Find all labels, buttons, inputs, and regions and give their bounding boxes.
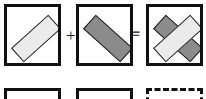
panel-light-bar-content — [7, 7, 58, 63]
panel-light-bar — [4, 4, 61, 66]
panel-row2-second-content — [79, 91, 130, 99]
equals-operator: = — [130, 26, 141, 42]
panel-dark-bar — [76, 4, 133, 66]
plus-operator: + — [66, 27, 76, 44]
panel-row2-second — [76, 88, 133, 99]
panel-row2-first — [4, 88, 61, 99]
panel-overlap-result — [146, 4, 203, 66]
panel-row2-third-dashed — [146, 88, 203, 99]
light-rectangle — [11, 14, 58, 62]
panel-row2-first-content — [7, 91, 58, 99]
dark-rectangle — [83, 14, 130, 62]
panel-dark-bar-content — [79, 7, 130, 63]
panel-row2-third-dashed-content — [149, 91, 200, 99]
shape-composition-diagram: += — [0, 0, 206, 99]
panel-overlap-result-content — [149, 7, 200, 63]
